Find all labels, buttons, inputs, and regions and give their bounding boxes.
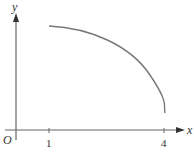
x-tick-label-4: 4 (161, 137, 167, 149)
y-axis-arrow-icon (13, 13, 19, 22)
graph-svg: y x O 1 4 (0, 0, 194, 156)
y-axis-label: y (11, 0, 18, 14)
graph-figure: y x O 1 4 (0, 0, 194, 156)
x-axis-label: x (186, 123, 193, 137)
x-tick-label-1: 1 (46, 137, 52, 149)
origin-label: O (3, 133, 12, 147)
x-axis-arrow-icon (176, 127, 185, 133)
curve (49, 26, 165, 113)
